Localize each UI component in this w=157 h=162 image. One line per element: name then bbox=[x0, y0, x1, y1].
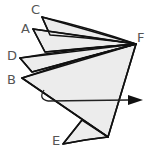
label-f: F bbox=[137, 30, 144, 45]
label-a: A bbox=[21, 21, 30, 36]
label-e: E bbox=[52, 133, 60, 148]
label-c: C bbox=[31, 2, 40, 17]
folded-fan-diagram: C A D B F E bbox=[0, 0, 157, 162]
label-d: D bbox=[7, 48, 17, 63]
label-b: B bbox=[7, 72, 16, 87]
arrowhead-icon bbox=[128, 95, 143, 105]
